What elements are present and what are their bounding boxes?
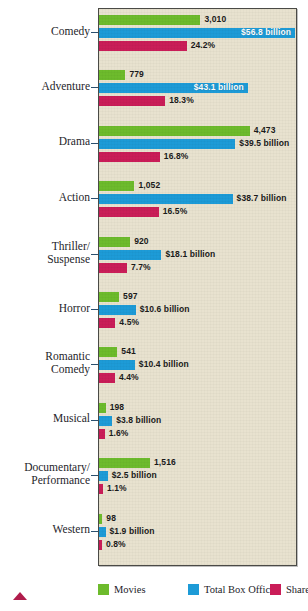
bar-row-movies: 920	[99, 237, 296, 247]
category-label-drama: Drama	[0, 135, 90, 148]
bar-value-label: $10.4 billion	[139, 359, 189, 370]
bar-share[interactable]	[99, 41, 187, 51]
category-label-horror: Horror	[0, 302, 90, 315]
chart-legend: MoviesTotal Box OfficeShare	[98, 582, 303, 596]
axis-tick	[91, 198, 98, 199]
bar-movies[interactable]	[99, 237, 130, 247]
bar-movies[interactable]	[99, 70, 125, 80]
axis-tick	[91, 143, 98, 144]
bar-value-label: 7.7%	[131, 262, 151, 273]
bar-share[interactable]	[99, 540, 102, 550]
bar-movies[interactable]	[99, 403, 106, 413]
plot-area: 3,010$56.8 billion24.2%779$43.1 billion1…	[98, 8, 297, 566]
bar-row-boxoffice: $56.8 billion	[99, 28, 296, 38]
bar-value-label: 1,052	[138, 180, 160, 191]
bar-value-label: 779	[129, 69, 143, 80]
bar-row-share: 4.5%	[99, 318, 296, 328]
bar-row-share: 16.8%	[99, 152, 296, 162]
bar-row-movies: 597	[99, 292, 296, 302]
bar-movies[interactable]	[99, 292, 119, 302]
category-label-romantic-comedy: Romantic Comedy	[0, 350, 90, 376]
category-label-comedy: Comedy	[0, 25, 90, 38]
category-label-adventure: Adventure	[0, 80, 90, 93]
bar-movies[interactable]	[99, 458, 150, 468]
axis-tick	[91, 32, 98, 33]
bar-value-label: 98	[106, 513, 116, 524]
bar-value-label: $3.8 billion	[116, 415, 161, 426]
bar-share[interactable]	[99, 484, 103, 494]
bar-row-boxoffice: $18.1 billion	[99, 250, 296, 260]
bar-value-label: $1.9 billion	[110, 526, 155, 537]
bar-share[interactable]	[99, 207, 159, 217]
bar-share[interactable]	[99, 429, 105, 439]
legend-swatch-icon	[188, 584, 199, 595]
category-label-thriller-suspense: Thriller/ Suspense	[0, 240, 90, 266]
genre-bar-chart-figure: ComedyAdventureDramaActionThriller/ Susp…	[0, 0, 308, 611]
bar-group: 1,052$38.7 billion16.5%	[99, 181, 296, 219]
bar-value-label: 1.1%	[107, 483, 127, 494]
bar-value-label: 4.4%	[119, 372, 139, 383]
bar-value-label: 1.6%	[109, 428, 129, 439]
legend-swatch-icon	[98, 584, 109, 595]
bar-value-label: 597	[123, 291, 137, 302]
bar-value-label: $39.5 billion	[239, 138, 289, 149]
bar-row-movies: 541	[99, 347, 296, 357]
legend-item-movies[interactable]: Movies	[98, 582, 146, 596]
bar-row-movies: 4,473	[99, 126, 296, 136]
axis-tick	[91, 475, 98, 476]
bar-boxoffice[interactable]	[99, 416, 112, 426]
bar-value-label: $2.5 billion	[112, 470, 157, 481]
bar-movies[interactable]	[99, 181, 134, 191]
bar-movies[interactable]	[99, 514, 102, 524]
bar-group: 98$1.9 billion0.8%	[99, 514, 296, 552]
bar-group: 1,516$2.5 billion1.1%	[99, 458, 296, 496]
bar-boxoffice[interactable]	[99, 305, 136, 315]
bar-boxoffice[interactable]	[99, 194, 233, 204]
bar-value-label: $18.1 billion	[165, 249, 215, 260]
bar-share[interactable]	[99, 263, 127, 273]
bar-movies[interactable]	[99, 126, 250, 136]
legend-label: Share	[286, 584, 308, 595]
bar-boxoffice[interactable]	[99, 250, 161, 260]
bar-group: 541$10.4 billion4.4%	[99, 347, 296, 385]
bar-value-label: 541	[121, 346, 135, 357]
bar-value-label: 16.5%	[163, 206, 188, 217]
axis-tick	[91, 420, 98, 421]
bar-boxoffice[interactable]	[99, 139, 235, 149]
bar-row-boxoffice: $1.9 billion	[99, 527, 296, 537]
bar-share[interactable]	[99, 318, 115, 328]
bar-share[interactable]	[99, 96, 165, 106]
bar-group: 920$18.1 billion7.7%	[99, 237, 296, 275]
bar-value-label: 24.2%	[191, 40, 216, 51]
legend-item-share[interactable]: Share	[270, 582, 308, 596]
bar-row-boxoffice: $3.8 billion	[99, 416, 296, 426]
legend-label: Movies	[114, 584, 146, 595]
bar-group: 597$10.6 billion4.5%	[99, 292, 296, 330]
bar-row-share: 18.3%	[99, 96, 296, 106]
triangle-marker-icon	[13, 592, 27, 600]
bar-boxoffice[interactable]	[99, 360, 135, 370]
bar-row-movies: 1,052	[99, 181, 296, 191]
bar-share[interactable]	[99, 373, 115, 383]
bar-row-share: 0.8%	[99, 540, 296, 550]
axis-tick	[91, 309, 98, 310]
bar-value-label: 198	[110, 402, 124, 413]
bar-value-label: 18.3%	[169, 95, 194, 106]
bar-movies[interactable]	[99, 15, 200, 25]
bar-row-share: 16.5%	[99, 207, 296, 217]
bar-row-boxoffice: $43.1 billion	[99, 83, 296, 93]
bar-group: 779$43.1 billion18.3%	[99, 70, 296, 108]
axis-tick	[91, 364, 98, 365]
bar-movies[interactable]	[99, 347, 117, 357]
bar-boxoffice[interactable]	[99, 471, 108, 481]
legend-item-total-box-office[interactable]: Total Box Office	[188, 582, 275, 596]
legend-swatch-icon	[270, 584, 281, 595]
bar-row-share: 7.7%	[99, 263, 296, 273]
bar-value-label: 0.8%	[106, 539, 126, 550]
category-label-action: Action	[0, 191, 90, 204]
bar-boxoffice[interactable]	[99, 527, 106, 537]
bar-share[interactable]	[99, 152, 160, 162]
bar-row-share: 1.6%	[99, 429, 296, 439]
bar-value-label: $10.6 billion	[140, 304, 190, 315]
category-label-musical: Musical	[0, 412, 90, 425]
